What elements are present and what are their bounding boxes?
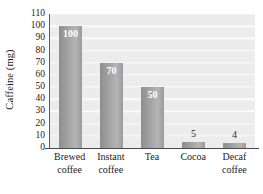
y-axis-tick-label: 10 (36, 131, 46, 141)
bar-value-label: 70 (100, 66, 124, 76)
bar-value-label: 50 (141, 90, 165, 100)
y-axis-tick-label: 90 (36, 34, 46, 44)
x-axis-tick-label-line: Tea (131, 151, 172, 164)
y-axis-tick-label: 20 (36, 119, 46, 129)
plot-area: 100705054 (49, 14, 255, 148)
x-axis-tick-labels: BrewedcoffeeInstantcoffeeTeaCocoaDecafco… (49, 151, 255, 176)
x-axis-tick-label-line: Instant (90, 151, 131, 164)
bar[interactable]: 50 (141, 87, 165, 148)
y-axis-tick-label: 30 (36, 107, 46, 117)
x-axis-tick-label: Cocoa (173, 151, 214, 176)
bar[interactable]: 100 (59, 26, 83, 148)
y-axis-tick-label: 80 (36, 46, 46, 56)
bar-slot: 70 (91, 14, 132, 148)
y-axis-tick-label: 70 (36, 58, 46, 68)
bar-series: 100705054 (50, 14, 255, 148)
x-axis-tick-label-line: Decaf (214, 151, 255, 164)
bar-value-label: 100 (59, 29, 83, 39)
x-axis-tick-label: Decafcoffee (214, 151, 255, 176)
y-axis-tick-label: 110 (31, 9, 45, 19)
caffeine-bar-chart-figure: Caffeine (mg) 0102030405060708090100110 … (0, 0, 263, 194)
x-axis-tick-label-line: Cocoa (173, 151, 214, 164)
x-axis-tick-label-line: coffee (214, 164, 255, 177)
y-axis-tick-label: 100 (31, 21, 45, 31)
y-axis-tick-labels: 0102030405060708090100110 (18, 14, 48, 148)
bar-value-label: 5 (182, 129, 206, 139)
bar-slot: 100 (50, 14, 91, 148)
bar-slot: 5 (173, 14, 214, 148)
x-axis-tick-label-line: coffee (90, 164, 131, 177)
y-axis-title: Caffeine (mg) (4, 49, 15, 109)
x-axis-tick-label-line: coffee (49, 164, 90, 177)
x-axis-tick-label: Brewedcoffee (49, 151, 90, 176)
bar-slot: 50 (132, 14, 173, 148)
x-axis-tick-label: Instantcoffee (90, 151, 131, 176)
x-axis-tick-label-line: Brewed (49, 151, 90, 164)
x-axis-tick-label: Tea (131, 151, 172, 176)
bar[interactable]: 70 (100, 63, 124, 148)
y-axis-tick-label: 40 (36, 95, 46, 105)
y-axis-tick-label: 60 (36, 70, 46, 80)
y-axis-tick-label: 50 (36, 82, 46, 92)
x-axis-line (45, 148, 259, 149)
bar-slot: 4 (214, 14, 255, 148)
bar-value-label: 4 (223, 130, 247, 140)
y-axis-title-container: Caffeine (mg) (0, 0, 18, 158)
